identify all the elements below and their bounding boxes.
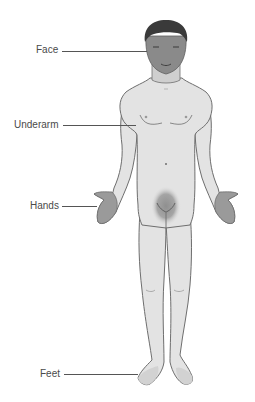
- label-feet: Feet: [40, 368, 60, 380]
- leader-line-underarm: [63, 125, 136, 126]
- leader-line-hands: [62, 206, 97, 207]
- left-hand: [94, 192, 117, 224]
- label-underarm: Underarm: [14, 119, 58, 131]
- leader-line-feet: [64, 374, 138, 375]
- right-hand: [215, 192, 238, 224]
- label-hands: Hands: [30, 200, 59, 212]
- left-leg: [138, 212, 166, 385]
- label-face: Face: [36, 44, 58, 56]
- right-leg: [166, 212, 193, 384]
- leader-line-face: [62, 51, 147, 52]
